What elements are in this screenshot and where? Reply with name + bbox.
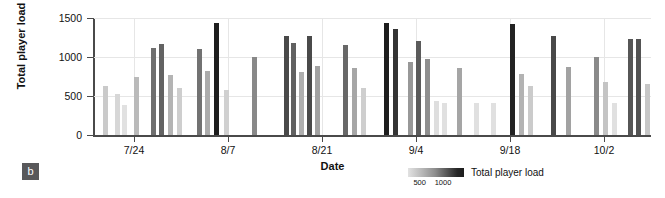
y-tick-mark: [87, 57, 93, 58]
bar: [205, 71, 210, 135]
x-tick-label: 9/4: [409, 144, 424, 156]
y-tick-label: 1000: [46, 51, 82, 63]
bar: [636, 39, 641, 135]
bar: [551, 36, 556, 135]
figure-panel-b: Total player load 050010001500 Date b 50…: [0, 0, 665, 198]
bar: [352, 68, 357, 135]
plot-area: [94, 18, 651, 135]
legend-colorbar: 5001000 Total player load: [408, 168, 544, 177]
bar: [159, 44, 164, 135]
bar: [384, 23, 389, 135]
x-tick-mark: [134, 136, 135, 142]
bar: [151, 48, 156, 135]
bar: [307, 36, 312, 135]
y-tick-mark: [87, 18, 93, 19]
x-tick-label: 9/18: [500, 144, 520, 156]
bar: [645, 84, 650, 135]
legend-gradient-swatch: [408, 168, 464, 177]
bar: [393, 29, 398, 135]
gridline-vertical: [322, 18, 323, 135]
bar: [214, 23, 219, 135]
bar: [566, 67, 571, 135]
bar: [425, 59, 430, 135]
x-tick-label: 8/21: [312, 144, 332, 156]
x-tick-mark: [322, 136, 323, 142]
x-tick-mark: [416, 136, 417, 142]
bar: [491, 103, 496, 135]
y-tick-label: 500: [46, 90, 82, 102]
bar: [442, 103, 447, 135]
bar: [628, 39, 633, 135]
bar: [510, 24, 515, 135]
bar: [343, 45, 348, 135]
bar: [594, 57, 599, 135]
bar: [103, 86, 108, 135]
x-tick-mark: [510, 136, 511, 142]
y-tick-mark: [87, 96, 93, 97]
bar: [299, 72, 304, 135]
x-tick-mark: [228, 136, 229, 142]
bar: [122, 105, 127, 135]
bar: [197, 49, 202, 135]
legend-tick-label: 500: [413, 178, 426, 187]
bar: [528, 86, 533, 135]
bar: [408, 62, 413, 135]
y-tick-label: 1500: [46, 12, 82, 24]
bar: [315, 66, 320, 135]
bar: [519, 74, 524, 135]
bar: [457, 68, 462, 135]
bar: [416, 41, 421, 135]
y-tick-label: 0: [46, 129, 82, 141]
x-tick-mark: [604, 136, 605, 142]
bar: [474, 103, 479, 135]
panel-label-b: b: [22, 163, 39, 180]
gridline-horizontal: [94, 57, 651, 58]
y-axis-label: Total player load: [15, 0, 27, 106]
bar: [361, 88, 366, 135]
bar: [177, 88, 182, 135]
legend-gradient-wrap: 5001000: [408, 168, 464, 177]
x-axis-label: Date: [0, 160, 665, 172]
bar: [603, 82, 608, 135]
legend-title: Total player load: [471, 168, 544, 177]
bar: [284, 36, 289, 135]
legend-tick-label: 1000: [435, 178, 452, 187]
x-tick-label: 7/24: [124, 144, 144, 156]
bar: [434, 101, 439, 135]
bar: [224, 90, 229, 135]
x-tick-label: 10/2: [594, 144, 614, 156]
bar: [134, 77, 139, 135]
y-tick-mark: [87, 135, 93, 136]
x-axis-line: [93, 135, 651, 137]
bar: [168, 75, 173, 135]
bar: [612, 103, 617, 135]
bar: [252, 57, 257, 135]
bar: [115, 94, 120, 135]
x-tick-label: 8/7: [221, 144, 236, 156]
bar: [291, 43, 296, 135]
gridline-horizontal: [94, 18, 651, 19]
